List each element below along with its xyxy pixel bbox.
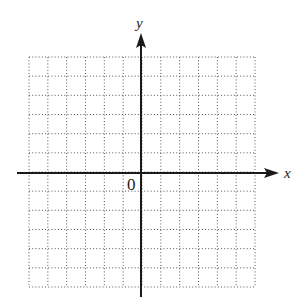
x-axis-label: x [283,165,291,181]
origin-label: 0 [127,175,136,194]
coordinate-plane: x y 0 [0,0,305,297]
y-axis-label: y [134,15,143,31]
